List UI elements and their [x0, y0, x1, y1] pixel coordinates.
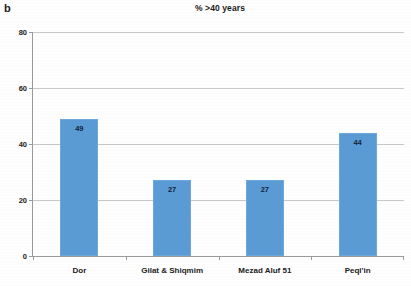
- bar-value-label: 27: [154, 185, 190, 194]
- y-tick-label: 60: [19, 84, 27, 93]
- x-tick-mark: [219, 256, 220, 260]
- y-tick-label: 40: [19, 140, 27, 149]
- x-tick-mark: [403, 256, 404, 260]
- bar[interactable]: 27: [246, 180, 284, 256]
- bar[interactable]: 27: [153, 180, 191, 256]
- x-tick-mark: [33, 256, 34, 260]
- y-tick-label: 80: [19, 28, 27, 37]
- chart-title: % >40 years: [55, 3, 385, 13]
- gridline-60: [33, 88, 404, 89]
- x-tick-mark: [126, 256, 127, 260]
- x-tick-mark: [311, 256, 312, 260]
- y-tick-mark-20: [29, 200, 33, 201]
- y-tick-label: 20: [19, 196, 27, 205]
- bar[interactable]: 44: [339, 133, 377, 256]
- x-axis-category-label: Peqi'in: [345, 266, 371, 275]
- x-axis-category-label: Gilat & Shiqmim: [141, 266, 203, 275]
- x-axis-category-label: Mezad Aluf 51: [238, 266, 291, 275]
- bar-value-label: 27: [247, 185, 283, 194]
- y-tick-mark-40: [29, 144, 33, 145]
- panel-label: b: [4, 2, 11, 14]
- gridline-80: [33, 32, 404, 33]
- y-tick-mark-60: [29, 88, 33, 89]
- plot-area: 020406080 49272744 DorGilat & ShiqmimMez…: [33, 32, 404, 256]
- x-axis-category-label: Dor: [72, 266, 86, 275]
- bar-value-label: 44: [340, 138, 376, 147]
- y-tick-mark-80: [29, 32, 33, 33]
- bar-value-label: 49: [61, 124, 97, 133]
- figure-panel-b: b % >40 years 020406080 49272744 DorGila…: [0, 0, 411, 286]
- bar[interactable]: 49: [60, 119, 98, 256]
- y-tick-label: 0: [23, 252, 27, 261]
